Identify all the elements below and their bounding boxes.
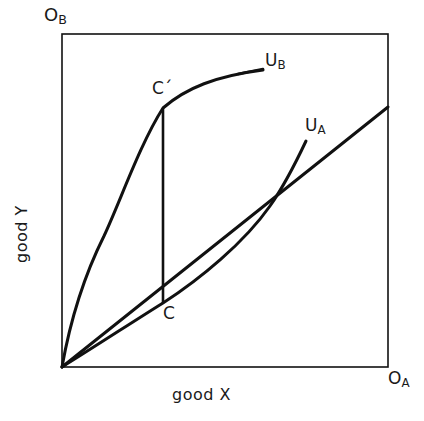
y-axis-label: good Y	[14, 195, 30, 273]
origin-b-letter: O	[44, 4, 58, 25]
origin-a-label: OA	[388, 370, 410, 390]
curve-ua-label: UA	[305, 117, 326, 137]
diagonal-line	[62, 107, 388, 367]
curve-ub-label: UB	[265, 52, 286, 72]
origin-a-letter: O	[388, 368, 401, 388]
origin-b-label: OB	[44, 6, 67, 26]
curve-ua-letter: U	[305, 115, 317, 135]
x-axis-label: good X	[172, 387, 231, 403]
edgeworth-box-chart	[0, 0, 424, 421]
edgeworth-box-figure: OB OA UB UA C´ C good X good Y	[0, 0, 424, 421]
point-c-label: C	[163, 305, 175, 322]
curve-ub-letter: U	[265, 50, 277, 70]
box-frame	[62, 34, 388, 367]
origin-a-subscript: A	[401, 376, 409, 390]
origin-b-subscript: B	[58, 12, 67, 27]
point-cprime-label: C´	[152, 80, 172, 97]
curve-ua-subscript: A	[317, 123, 325, 137]
curve-ua	[62, 141, 306, 367]
curve-ub-subscript: B	[277, 58, 285, 72]
